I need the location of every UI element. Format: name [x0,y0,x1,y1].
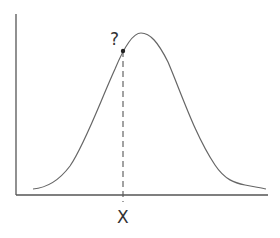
normal-curve [33,33,266,189]
point-label: ? [110,31,119,48]
x-label: X [117,209,129,226]
point-marker [121,49,125,53]
bell-curve-diagram [0,0,280,238]
